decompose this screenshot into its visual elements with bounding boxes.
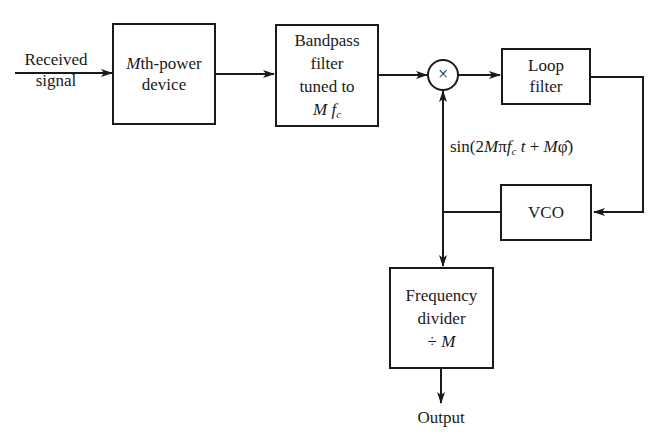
bandpass-label: Bandpass filter tuned to M fc	[276, 29, 378, 126]
sig-phi: φ̂	[558, 137, 568, 156]
sig-post: )	[567, 137, 573, 156]
bandpass-freq-sub: c	[336, 108, 341, 120]
multiplier-icon: ×	[433, 64, 453, 85]
bandpass-line2: filter	[276, 52, 378, 75]
sig-pi: π	[498, 137, 507, 156]
input-label-line1: Received	[8, 49, 104, 70]
freq-divider-line2: divider	[390, 307, 493, 330]
bandpass-line1: Bandpass	[276, 29, 378, 52]
sig-plus: +	[525, 137, 543, 156]
bandpass-freq: M f	[313, 100, 336, 119]
sig-m2: M	[543, 137, 557, 156]
mth-power-line1: th-power	[140, 54, 201, 73]
freq-divider-label: Frequency divider ÷ M	[390, 284, 493, 353]
freq-divider-var: M	[441, 332, 455, 351]
divide-icon: ÷	[428, 332, 437, 351]
vco-label: VCO	[501, 202, 591, 223]
output-label: Output	[395, 407, 487, 428]
sig-pre: sin(2	[450, 137, 484, 156]
loop-filter-line2: filter	[502, 76, 590, 97]
mth-power-label: Mth-power device	[113, 53, 215, 95]
loop-filter-label: Loop filter	[502, 55, 590, 97]
bandpass-line3: tuned to	[276, 75, 378, 98]
input-label-line2: signal	[8, 70, 104, 91]
mth-power-prefix: M	[126, 54, 140, 73]
input-label: Received signal	[8, 49, 104, 91]
sig-m: M	[484, 137, 498, 156]
loop-filter-line1: Loop	[502, 55, 590, 76]
mth-power-line2: device	[113, 74, 215, 95]
feedback-signal-label: sin(2Mπfc t + Mφ̂)	[450, 136, 630, 162]
freq-divider-line1: Frequency	[390, 284, 493, 307]
